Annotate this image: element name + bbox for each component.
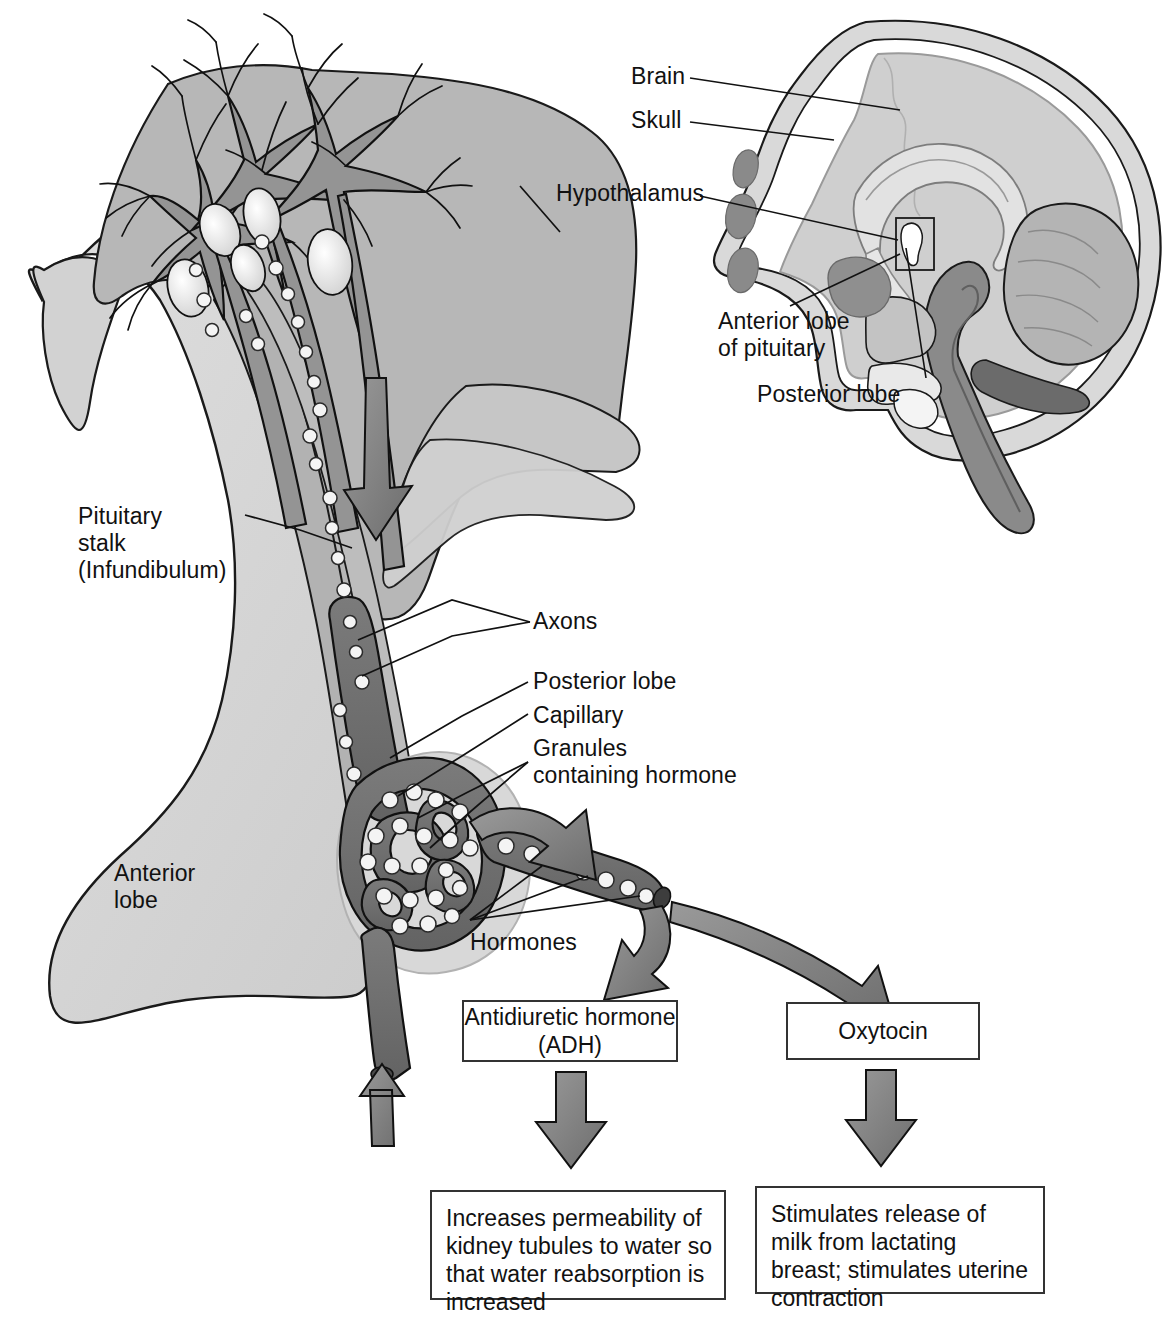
inset-label-anterior-lobe: Anterior lobe of pituitary xyxy=(718,308,850,362)
label-capillary: Capillary xyxy=(533,702,623,729)
box-adh: Antidiuretic hormone (ADH) xyxy=(462,1000,678,1062)
box-oxytocin: Oxytocin xyxy=(786,1002,980,1060)
inset-label-posterior-lobe: Posterior lobe xyxy=(757,381,900,408)
brain-inset xyxy=(690,21,1160,533)
label-posterior-lobe: Posterior lobe xyxy=(533,668,676,695)
box-oxytocin-effect: Stimulates release of milk from lactatin… xyxy=(755,1186,1045,1294)
label-anterior-lobe: Anterior lobe xyxy=(114,860,195,914)
inset-label-hypothalamus: Hypothalamus xyxy=(556,180,704,207)
label-hormones: Hormones xyxy=(470,929,577,956)
box-adh-effect: Increases permeability of kidney tubules… xyxy=(430,1190,726,1300)
label-pituitary-stalk: Pituitary stalk (Infundibulum) xyxy=(78,503,226,584)
inset-label-skull: Skull xyxy=(631,107,681,134)
label-axons: Axons xyxy=(533,608,597,635)
label-granules: Granules containing hormone xyxy=(533,735,737,789)
inset-label-brain: Brain xyxy=(631,63,685,90)
diagram-canvas: Brain Skull Hypothalamus Anterior lobe o… xyxy=(0,0,1168,1334)
